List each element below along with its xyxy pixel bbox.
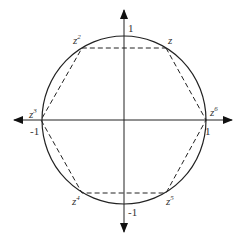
y-pos-label: 1 bbox=[128, 22, 134, 34]
unit-circle-diagram: 1 -1 1 -1 z z2 z3 z4 z5 z6 bbox=[0, 0, 251, 237]
point-z1: z bbox=[167, 34, 173, 46]
point-z4: z4 bbox=[71, 194, 80, 207]
y-neg-label: -1 bbox=[128, 206, 137, 218]
point-z6: z6 bbox=[209, 105, 218, 118]
x-neg-label: -1 bbox=[30, 125, 39, 137]
point-z2: z2 bbox=[72, 33, 81, 46]
point-z3: z3 bbox=[28, 107, 37, 120]
point-z5: z5 bbox=[165, 194, 174, 207]
x-pos-label: 1 bbox=[205, 125, 211, 137]
